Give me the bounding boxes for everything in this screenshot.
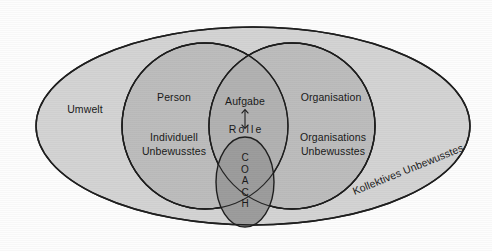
label-organisation: Organisation [276,91,386,104]
label-rolle: Rolle [204,123,286,136]
label-coach: C O A C H [226,152,264,210]
label-umwelt: Umwelt [0,103,170,116]
label-aufgabe: Aufgabe [204,95,286,108]
label-organisations-unbewusstes: Organisations Unbewusstes [278,131,388,158]
diagram-canvas: Umwelt Person Individuell Unbewusstes Or… [0,0,492,251]
